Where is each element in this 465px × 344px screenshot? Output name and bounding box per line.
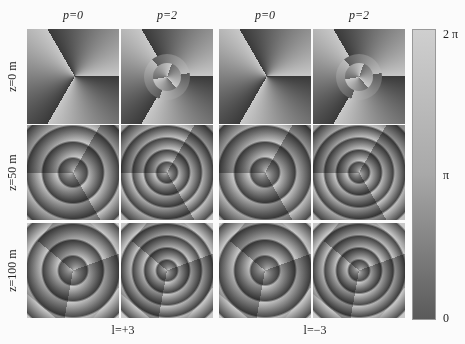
colorbar-tick-pi: π [443, 168, 449, 183]
panel-z0-p2-lminus [313, 29, 405, 124]
row-label-z0: z=0 m [2, 29, 22, 124]
ring-inner [153, 63, 181, 91]
row-label-z100: z=100 m [2, 223, 22, 318]
ring-inner [345, 63, 373, 91]
column-label-p2-left: p=2 [121, 8, 213, 23]
panel-z0-p2-lplus [121, 29, 213, 124]
panel-z100-p0-lplus [27, 223, 119, 318]
group-label-l-plus: l=+3 [93, 323, 153, 338]
panel-z100-p2-lplus [121, 223, 213, 318]
panel-z50-p0-lminus [219, 125, 311, 220]
panel-z100-p2-lminus [313, 223, 405, 318]
panel-z50-p2-lplus [121, 125, 213, 220]
colorbar-tick-2pi: 2 π [443, 27, 458, 42]
panel-z50-p0-lplus [27, 125, 119, 220]
column-label-p0-right: p=0 [219, 8, 311, 23]
column-label-p0-left: p=0 [27, 8, 119, 23]
row-label-z50: z=50 m [2, 125, 22, 220]
phase-colorbar [412, 29, 436, 320]
panel-z0-p0-lminus [219, 29, 311, 124]
colorbar-tick-0: 0 [443, 311, 449, 326]
phase-figure: p=0 p=2 p=0 p=2 z=0 m z=50 m z=100 m l=+… [0, 0, 465, 344]
panel-z50-p2-lminus [313, 125, 405, 220]
group-label-l-minus: l=−3 [285, 323, 345, 338]
column-label-p2-right: p=2 [313, 8, 405, 23]
panel-z100-p0-lminus [219, 223, 311, 318]
panel-z0-p0-lplus [27, 29, 119, 124]
